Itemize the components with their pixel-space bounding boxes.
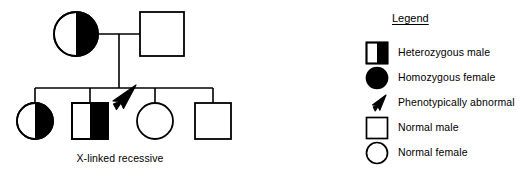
legend-item-homozygous-female: Homozygous female (330, 66, 530, 91)
person-daughter-1[interactable] (17, 103, 53, 139)
legend-label-phenotypically-abnormal: Phenotypically abnormal (398, 96, 515, 108)
pedigree-chart: X-linked recessive (0, 0, 330, 184)
circle-filled-icon (364, 66, 390, 91)
legend-label-normal-female: Normal female (398, 146, 468, 158)
person-mother[interactable] (54, 12, 98, 56)
legend-title: Legend (392, 12, 429, 24)
legend-item-normal-female: Normal female (330, 141, 530, 166)
arrow-icon (364, 91, 390, 116)
person-son-1[interactable] (72, 103, 108, 139)
legend-item-heterozygous-male: Heterozygous male (330, 41, 530, 66)
square-half-filled-icon (364, 41, 390, 66)
person-son-2[interactable] (195, 103, 231, 139)
person-father[interactable] (140, 12, 184, 56)
pedigree-figure: X-linked recessive Legend Heterozygous m… (0, 0, 530, 184)
legend: Legend Heterozygous male Homozygous fema… (330, 0, 530, 184)
person-daughter-2[interactable] (137, 103, 173, 139)
legend-label-homozygous-female: Homozygous female (398, 71, 495, 83)
square-open-icon (364, 116, 390, 141)
legend-label-heterozygous-male: Heterozygous male (398, 46, 490, 58)
legend-item-normal-male: Normal male (330, 116, 530, 141)
circle-open-icon (364, 141, 390, 166)
legend-label-normal-male: Normal male (398, 121, 459, 133)
pedigree-caption: X-linked recessive (0, 152, 240, 164)
legend-item-phenotypically-abnormal: Phenotypically abnormal (330, 91, 530, 116)
